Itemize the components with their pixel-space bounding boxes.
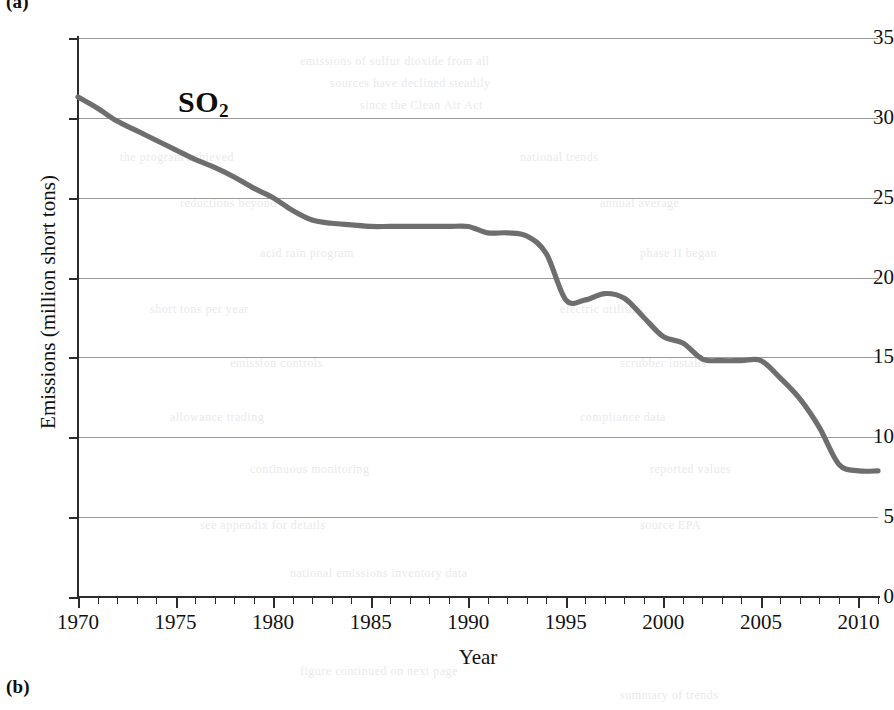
x-tick-minor-1973 — [137, 597, 138, 604]
x-tick-label-2000: 2000 — [618, 611, 708, 633]
x-tick-minor-1989 — [449, 597, 450, 604]
x-tick-major-1975 — [176, 597, 178, 608]
x-tick-label-1975: 1975 — [131, 611, 221, 633]
series-annotation-subscript: 2 — [219, 100, 229, 121]
x-tick-minor-1972 — [117, 597, 118, 604]
x-tick-minor-1984 — [351, 597, 352, 604]
x-tick-minor-1998 — [624, 597, 625, 604]
panel-label-b: (b) — [6, 676, 30, 698]
x-tick-major-1980 — [273, 597, 275, 608]
x-tick-minor-1987 — [410, 597, 411, 604]
x-tick-minor-1983 — [332, 597, 333, 604]
x-tick-minor-1971 — [98, 597, 99, 604]
x-tick-minor-1996 — [585, 597, 586, 604]
x-tick-minor-1978 — [234, 597, 235, 604]
x-tick-label-1990: 1990 — [423, 611, 513, 633]
x-tick-minor-1974 — [156, 597, 157, 604]
series-annotation-so2: SO2 — [178, 85, 229, 123]
x-tick-minor-1979 — [254, 597, 255, 604]
x-tick-label-1970: 1970 — [33, 611, 123, 633]
x-tick-minor-1982 — [312, 597, 313, 604]
x-tick-minor-2003 — [722, 597, 723, 604]
x-tick-minor-2004 — [741, 597, 742, 604]
x-tick-minor-2007 — [800, 597, 801, 604]
x-tick-label-2010: 2010 — [813, 611, 894, 633]
x-tick-major-1995 — [566, 597, 568, 608]
x-tick-minor-1994 — [546, 597, 547, 604]
x-tick-label-1985: 1985 — [326, 611, 416, 633]
x-tick-minor-1993 — [527, 597, 528, 604]
x-tick-minor-2002 — [702, 597, 703, 604]
scan-ghost-text-21: summary of trends — [620, 688, 718, 703]
x-tick-minor-1991 — [488, 597, 489, 604]
x-tick-minor-1981 — [293, 597, 294, 604]
series-annotation-text: SO2 — [178, 85, 229, 118]
x-tick-major-1985 — [371, 597, 373, 608]
x-tick-minor-1986 — [390, 597, 391, 604]
panel-label-a: (a) — [6, 0, 29, 13]
plot-area: SO2 — [78, 38, 878, 597]
x-tick-major-2005 — [761, 597, 763, 608]
x-tick-minor-1992 — [507, 597, 508, 604]
y-axis-title: Emissions (million short tons) — [37, 42, 59, 562]
x-tick-minor-1976 — [195, 597, 196, 604]
x-tick-minor-1997 — [605, 597, 606, 604]
x-tick-major-2000 — [663, 597, 665, 608]
x-tick-label-2005: 2005 — [716, 611, 806, 633]
x-tick-minor-1977 — [215, 597, 216, 604]
x-tick-label-1995: 1995 — [521, 611, 611, 633]
x-tick-minor-2006 — [780, 597, 781, 604]
x-tick-minor-1988 — [429, 597, 430, 604]
x-tick-minor-2001 — [683, 597, 684, 604]
x-tick-major-1990 — [468, 597, 470, 608]
figure-panel-a: (a) (b) emissions of sulfur dioxide from… — [0, 0, 894, 710]
x-tick-minor-2008 — [819, 597, 820, 604]
x-tick-minor-1999 — [644, 597, 645, 604]
x-tick-label-1980: 1980 — [228, 611, 318, 633]
x-axis-title: Year — [78, 646, 878, 668]
